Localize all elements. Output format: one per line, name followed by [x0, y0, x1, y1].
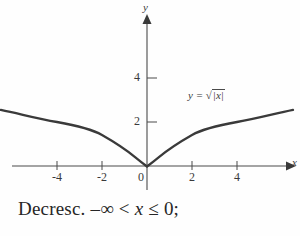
caption-prefix: Decresc. –∞ < [18, 198, 130, 219]
x-tick-label-2: 2 [181, 170, 203, 185]
y-tick-label-2: 2 [126, 114, 140, 129]
y-tick-label-4: 4 [126, 70, 140, 85]
y-axis-arrowhead [143, 14, 152, 24]
plot-area [0, 0, 300, 194]
y-axis-label: y [143, 1, 148, 13]
x-tick-label-4: 4 [226, 170, 248, 185]
radicand-abs-x: |x| [212, 89, 225, 102]
caption-variable: x [135, 198, 144, 219]
x-tick-label-neg4: -4 [46, 170, 68, 185]
figure-graph-sqrt-abs-x: y x -4 -2 0 2 4 2 4 y = √|x| Decresc. –∞… [0, 0, 300, 236]
x-tick-label-0: 0 [130, 170, 152, 185]
curve-equation-label: y = √|x| [188, 89, 225, 102]
x-axis-label: x [292, 156, 297, 168]
figure-caption: Decresc. –∞ < x ≤ 0; [18, 198, 179, 220]
x-tick-label-neg2: -2 [91, 170, 113, 185]
curve-equation-lhs: y = [188, 89, 203, 101]
caption-suffix: ≤ 0; [148, 198, 179, 219]
